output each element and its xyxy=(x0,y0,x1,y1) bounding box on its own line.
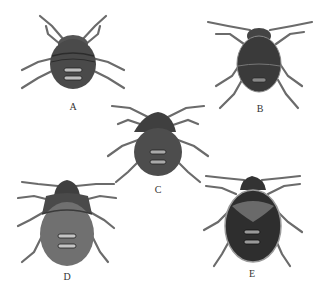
nymph-e-drawing xyxy=(0,0,326,295)
label-a: A xyxy=(69,101,76,112)
label-d: D xyxy=(63,271,70,282)
label-c: C xyxy=(155,184,162,195)
label-b: B xyxy=(257,103,264,114)
illustration-plate: A B C D E xyxy=(0,0,326,295)
label-e: E xyxy=(249,268,255,279)
